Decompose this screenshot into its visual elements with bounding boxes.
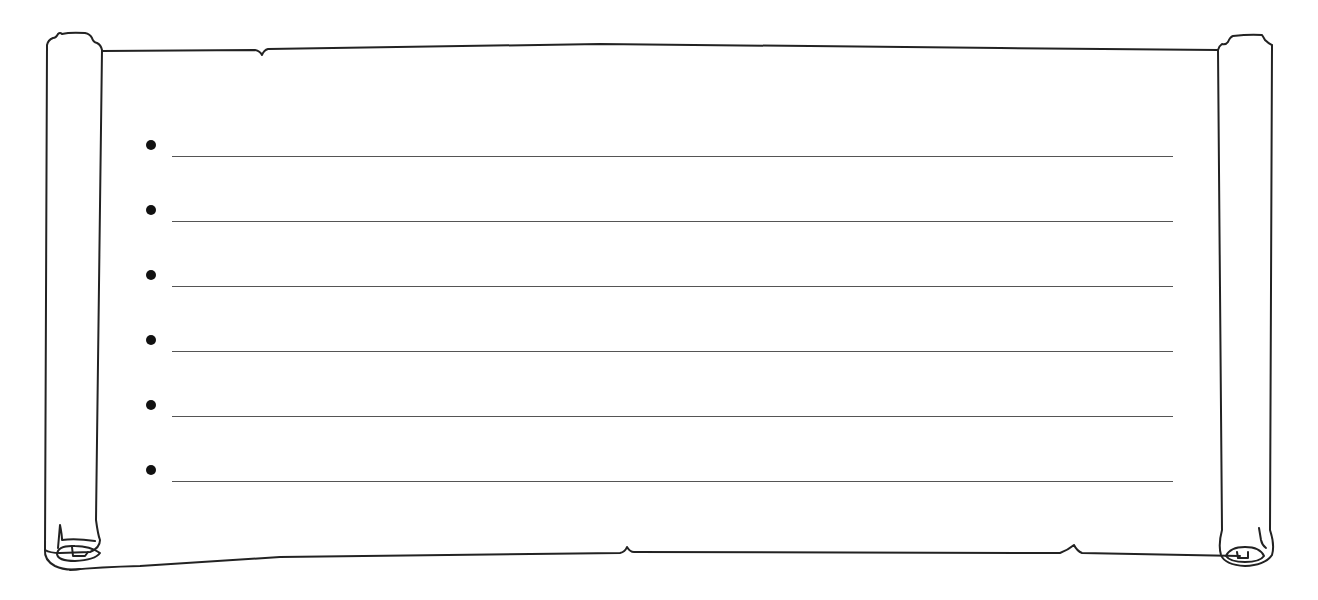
list-item [0, 327, 1318, 357]
list-item [0, 132, 1318, 162]
scroll-border [0, 0, 1318, 600]
bullet-icon [146, 335, 156, 345]
bullet-icon [146, 400, 156, 410]
bullet-icon [146, 140, 156, 150]
writing-line[interactable] [172, 351, 1173, 352]
list-item [0, 197, 1318, 227]
bullet-icon [146, 465, 156, 475]
writing-line[interactable] [172, 156, 1173, 157]
list-item [0, 457, 1318, 487]
scroll-top-edge [102, 44, 1218, 55]
writing-line[interactable] [172, 481, 1173, 482]
list-item [0, 392, 1318, 422]
writing-line[interactable] [172, 221, 1173, 222]
writing-line[interactable] [172, 286, 1173, 287]
writing-line[interactable] [172, 416, 1173, 417]
list-item [0, 262, 1318, 292]
bullet-icon [146, 205, 156, 215]
scroll-bottom-edge [70, 545, 1240, 570]
bullet-icon [146, 270, 156, 280]
